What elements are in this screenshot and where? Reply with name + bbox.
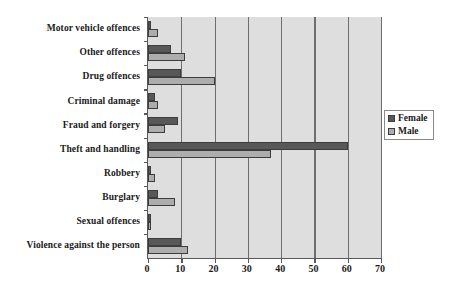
y-tick: [144, 186, 148, 187]
category-label: Other offences: [0, 41, 145, 65]
category-label: Violence against the person: [0, 234, 145, 258]
bar-group: [148, 138, 381, 162]
y-tick: [144, 234, 148, 235]
y-tick: [144, 113, 148, 114]
category-label: Criminal damage: [0, 89, 145, 113]
bar-group: [148, 210, 381, 234]
bar-female: [148, 93, 155, 101]
bar-group: [148, 234, 381, 258]
bar-female: [148, 142, 348, 150]
x-tick-label: 40: [275, 264, 285, 274]
category-axis-labels: Motor vehicle offencesOther offencesDrug…: [0, 17, 145, 258]
plot-area: [147, 17, 381, 259]
gridline: [381, 17, 382, 258]
bar-male: [148, 125, 165, 133]
x-tick-label: 0: [145, 264, 150, 274]
bar-group: [148, 186, 381, 210]
bar-group: [148, 17, 381, 41]
bar-female: [148, 21, 151, 29]
x-tick-label: 20: [209, 264, 219, 274]
value-axis-labels: 010203040506070: [147, 264, 380, 280]
y-tick: [144, 138, 148, 139]
bar-female: [148, 214, 151, 222]
bar-female: [148, 166, 151, 174]
category-label: Robbery: [0, 162, 145, 186]
x-tick-label: 50: [308, 264, 318, 274]
bar-male: [148, 246, 188, 254]
bar-female: [148, 45, 171, 53]
bar-group: [148, 162, 381, 186]
x-tick-label: 30: [242, 264, 252, 274]
y-tick: [144, 17, 148, 18]
bar-male: [148, 77, 215, 85]
category-label: Theft and handling: [0, 137, 145, 161]
bar-series-container: [148, 17, 381, 258]
bar-group: [148, 113, 381, 137]
bar-group: [148, 41, 381, 65]
legend-item-female[interactable]: Female: [388, 114, 428, 124]
legend-swatch-icon: [388, 128, 395, 135]
bar-group: [148, 65, 381, 89]
category-label: Burglary: [0, 186, 145, 210]
bar-female: [148, 117, 178, 125]
y-tick: [144, 162, 148, 163]
x-tick-label: 60: [342, 264, 352, 274]
bar-group: [148, 89, 381, 113]
bar-male: [148, 150, 271, 158]
x-tick-label: 10: [175, 264, 185, 274]
category-label: Fraud and forgery: [0, 113, 145, 137]
bar-chart: Motor vehicle offencesOther offencesDrug…: [0, 0, 456, 292]
bar-male: [148, 174, 155, 182]
y-tick: [144, 210, 148, 211]
category-label: Motor vehicle offences: [0, 17, 145, 41]
x-tick-label: 70: [375, 264, 385, 274]
y-tick: [144, 65, 148, 66]
legend-label: Male: [398, 127, 419, 137]
legend-label: Female: [398, 114, 428, 124]
legend-swatch-icon: [388, 115, 395, 122]
y-tick: [144, 41, 148, 42]
bar-male: [148, 101, 158, 109]
category-label: Sexual offences: [0, 210, 145, 234]
bar-male: [148, 29, 158, 37]
legend-item-male[interactable]: Male: [388, 127, 428, 137]
y-tick: [144, 89, 148, 90]
category-label: Drug offences: [0, 65, 145, 89]
bar-male: [148, 222, 151, 230]
bar-female: [148, 190, 158, 198]
bar-male: [148, 198, 175, 206]
bar-female: [148, 238, 181, 246]
bar-female: [148, 69, 181, 77]
chart-legend: FemaleMale: [384, 110, 434, 140]
bar-male: [148, 53, 185, 61]
